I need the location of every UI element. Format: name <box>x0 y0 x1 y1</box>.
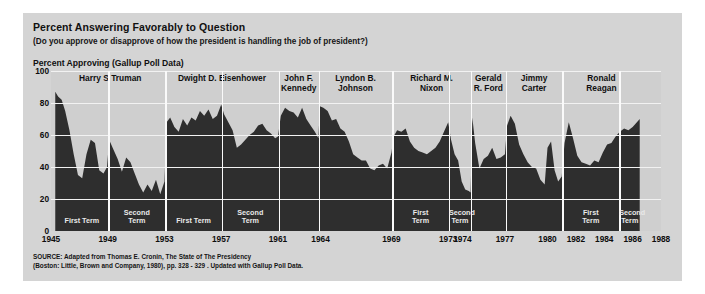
y-axis-caption: Percent Approving (Gallup Poll Data) <box>33 58 184 68</box>
chart-figure: Percent Answering Favorably to Question … <box>23 13 682 281</box>
approval-area-series <box>51 71 661 231</box>
y-axis-tick-label: 20 <box>23 194 49 204</box>
x-axis-tick-label: 1982 <box>567 234 585 244</box>
x-axis-tick-label: 1964 <box>311 234 329 244</box>
x-axis-tick-label: 1980 <box>538 234 556 244</box>
x-axis-tick-label: 1984 <box>595 234 613 244</box>
x-axis-tick-label: 1953 <box>155 234 173 244</box>
x-axis-tick-label: 1969 <box>382 234 400 244</box>
y-axis-tick-label: 40 <box>23 162 49 172</box>
y-axis-tick-label: 80 <box>23 98 49 108</box>
x-axis-tick-label: 1949 <box>99 234 117 244</box>
chart-subtitle: (Do you approve or disapprove of how the… <box>33 37 368 46</box>
source-line-1: SOURCE: Adapted from Thomas E. Cronin, T… <box>33 253 251 260</box>
x-axis-tick-label: 1945 <box>42 234 60 244</box>
y-axis-tick-label: 100 <box>23 66 49 76</box>
x-axis: 1945194919531957196119641969197319741977… <box>51 232 661 246</box>
x-axis-tick-label: 1988 <box>652 234 670 244</box>
y-axis-tick-label: 60 <box>23 130 49 140</box>
page-title: Percent Answering Favorably to Question <box>33 21 245 33</box>
x-axis-tick-label: 1961 <box>269 234 287 244</box>
x-axis-tick-label: 1974 <box>453 234 471 244</box>
source-line-2: (Boston: Little, Brown and Company, 1980… <box>33 262 303 269</box>
x-axis-tick-label: 1977 <box>496 234 514 244</box>
plot-area-wrapper: 020406080100 Harry S TrumanFirst TermSec… <box>33 71 673 243</box>
approval-area-path <box>55 92 639 231</box>
plot-area: Harry S TrumanFirst TermSecond TermDwigh… <box>51 71 661 231</box>
x-axis-tick-label: 1957 <box>212 234 230 244</box>
y-axis: 020406080100 <box>23 71 49 231</box>
x-axis-tick-label: 1986 <box>623 234 641 244</box>
